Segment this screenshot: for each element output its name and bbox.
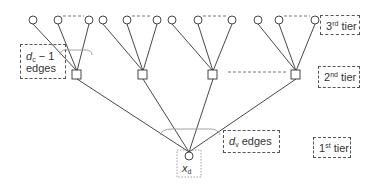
leaf-variable-nodes: [29, 16, 319, 24]
tree-diagram: [0, 0, 374, 186]
tier2-label: 2nd tier: [324, 71, 356, 83]
tier3-label: 3rd tier: [326, 20, 357, 32]
tier1-label: 1st tier: [319, 142, 349, 154]
ellipsis-dashes: [63, 16, 310, 72]
dc-edges-label: dc − 1 edges: [26, 50, 56, 74]
check-nodes: [72, 70, 300, 79]
root-label: xd: [182, 162, 191, 174]
dv-edges-label: dv edges: [229, 135, 272, 147]
root-node: [185, 152, 193, 160]
